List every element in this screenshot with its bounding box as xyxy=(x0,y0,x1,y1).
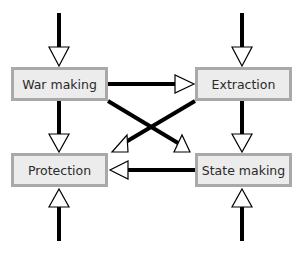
arrowhead-diag-into-protection-icon xyxy=(112,135,128,152)
line-extraction-to-protection xyxy=(124,101,195,143)
diagram-connectors xyxy=(0,0,304,254)
arrowhead-into-protection-top-icon xyxy=(49,134,69,152)
arrowhead-into-extraction-left-icon xyxy=(175,75,194,93)
node-label: Extraction xyxy=(212,77,276,92)
node-label: State making xyxy=(202,163,285,178)
arrowhead-into-state-making-top-icon xyxy=(232,134,252,152)
state-formation-diagram: War making Extraction Protection State m… xyxy=(0,0,304,254)
node-state-making: State making xyxy=(195,153,292,187)
arrowhead-into-protection-right-icon xyxy=(110,161,128,179)
arrowhead-into-state-making-bottom-icon xyxy=(232,189,252,207)
node-extraction: Extraction xyxy=(195,67,292,101)
node-protection: Protection xyxy=(11,153,108,187)
line-war-to-state xyxy=(108,101,178,143)
arrowhead-into-war-making-icon xyxy=(49,47,69,66)
arrowhead-into-protection-bottom-icon xyxy=(49,189,69,207)
node-label: Protection xyxy=(28,163,91,178)
arrowhead-into-extraction-icon xyxy=(232,47,252,66)
node-label: War making xyxy=(22,77,97,92)
node-war-making: War making xyxy=(11,67,108,101)
